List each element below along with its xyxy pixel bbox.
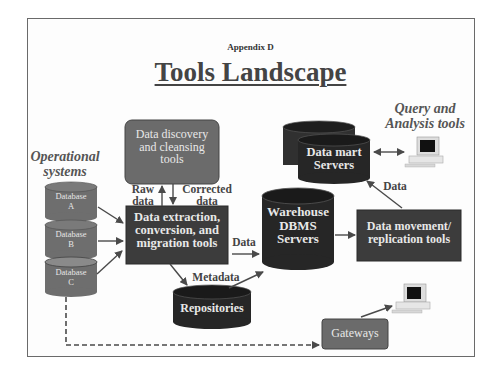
warehouse-label: Warehouse DBMS Servers [264, 205, 332, 246]
operational-systems-label: Operational systems [30, 150, 100, 179]
database-a-label: Database A [45, 192, 97, 212]
computer-icon-query [405, 137, 443, 167]
computer-icon-gateway [392, 284, 430, 313]
corrected-data-label: Corrected data [176, 183, 238, 207]
arrow-gateway-to-computer [361, 306, 392, 317]
database-c-id: C [45, 278, 97, 288]
arrow-db-a [98, 207, 123, 223]
diagram-canvas [0, 0, 501, 375]
database-b-id: B [45, 240, 97, 250]
repositories-label: Repositories [173, 302, 251, 315]
database-b-label: Database B [45, 230, 97, 250]
database-a-id: A [45, 202, 97, 212]
arrow-db-c [97, 251, 122, 274]
database-c-label: Database C [45, 268, 97, 288]
gateways-label: Gateways [322, 327, 388, 340]
extraction-label: Data extraction, conversion, and migrati… [127, 211, 227, 250]
arrow-to-repositories [170, 264, 187, 285]
metadata-label: Metadata [188, 271, 244, 283]
raw-data-label: Raw data [128, 183, 158, 207]
movement-label: Data movement/ replication tools [358, 220, 460, 245]
datamart-label: Data mart Servers [300, 146, 368, 172]
data-to-mart-label: Data [380, 180, 410, 192]
data-to-warehouse-label: Data [229, 236, 259, 248]
query-analysis-label: Query and Analysis tools [376, 102, 474, 131]
discovery-label: Data discovery and cleansing tools [127, 128, 217, 166]
